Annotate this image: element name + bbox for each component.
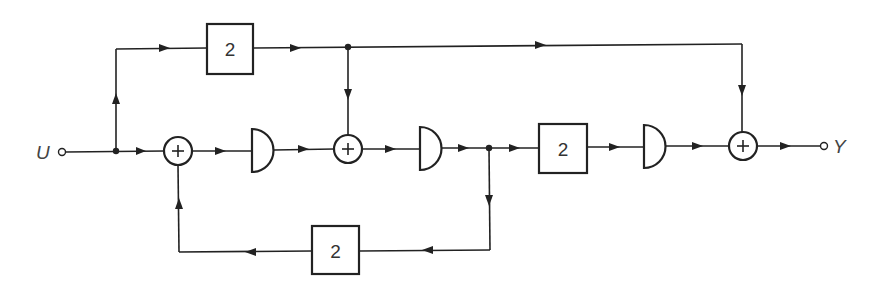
arrow-right-icon <box>780 142 791 150</box>
arrow-down-icon <box>485 195 493 206</box>
delay-element-3 <box>644 125 666 168</box>
arrow-right-icon <box>290 44 301 52</box>
input-label: U <box>36 142 50 163</box>
delay-element-1 <box>252 129 274 172</box>
arrow-right-icon <box>535 41 546 49</box>
input-port <box>59 149 66 156</box>
arrow-right-icon <box>509 144 520 152</box>
arrow-down-icon <box>344 89 352 100</box>
arrow-up-icon <box>112 93 120 104</box>
arrow-right-icon <box>298 145 309 153</box>
arrow-left-icon <box>245 248 256 256</box>
arrow-right-icon <box>458 144 469 152</box>
gain-block-forward-label: 2 <box>558 139 569 160</box>
arrow-right-icon <box>609 143 620 151</box>
arrow-right-icon <box>385 145 396 153</box>
arrow-up-icon <box>175 198 183 209</box>
arrow-down-icon <box>738 85 746 96</box>
block-diagram: U 2 2 <box>0 0 875 292</box>
arrow-right-icon <box>692 142 703 150</box>
output-label: Y <box>833 136 847 157</box>
gain-block-feedback-label: 2 <box>330 241 341 262</box>
delay-element-2 <box>420 127 442 170</box>
arrow-right-icon <box>215 147 226 155</box>
arrow-right-icon <box>136 147 146 155</box>
arrow-left-icon <box>422 246 433 254</box>
output-port <box>821 143 828 150</box>
wire-top-feedforward <box>253 44 742 48</box>
arrow-right-icon <box>159 44 170 52</box>
gain-block-top-label: 2 <box>225 39 236 60</box>
